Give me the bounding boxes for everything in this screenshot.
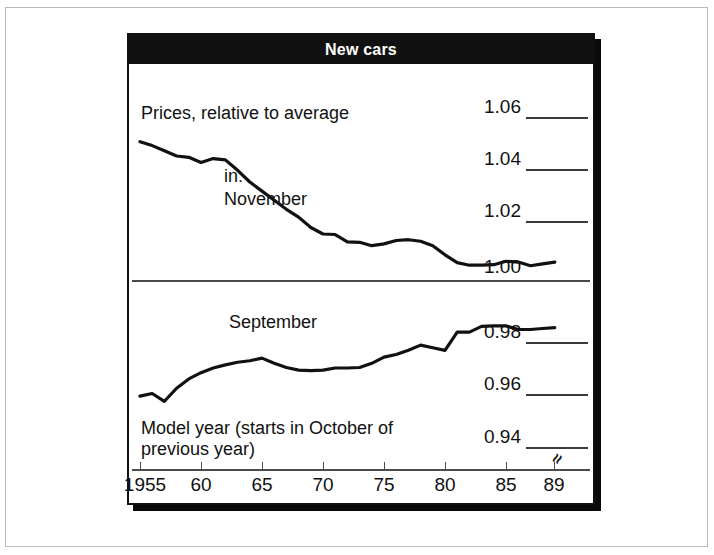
series-line-september xyxy=(140,326,555,401)
plot-stage: 1.06 1.04 1.02 1.00 0.98 0.96 0.94 ≈ 195… xyxy=(129,35,593,503)
screenshot-page: New cars 1.06 1.04 1.02 1.00 0.98 0.96 0… xyxy=(0,0,714,555)
chart-figure: New cars 1.06 1.04 1.02 1.00 0.98 0.96 0… xyxy=(127,33,595,505)
series-canvas xyxy=(129,35,593,503)
series-line-november xyxy=(140,142,555,266)
